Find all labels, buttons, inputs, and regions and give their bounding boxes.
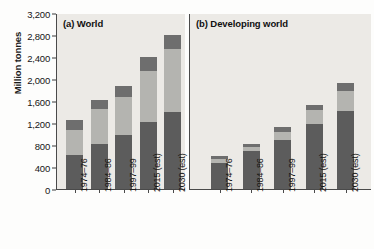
panel-developing-world-x-axis-line [189, 189, 371, 190]
bar-segment-animal-feed [337, 91, 354, 111]
bar-segment-animal-feed [306, 110, 323, 124]
bar-segment-other-uses [164, 35, 181, 49]
bar-segment-other-uses [337, 83, 354, 91]
bar-segment-animal-feed [115, 97, 132, 136]
panel-world-y-axis-line [56, 14, 57, 190]
x-tick-label: 1974–76 [224, 158, 234, 192]
x-tick-label: 1984–86 [255, 158, 265, 192]
bar-segment-animal-feed [66, 130, 83, 155]
x-tick-mark [75, 190, 76, 193]
x-tick-label: 2030 (est) [350, 153, 360, 192]
x-tick-mark [346, 190, 347, 193]
bar-segment-other-uses [140, 57, 157, 71]
x-tick-label: 1984–86 [103, 158, 113, 192]
bar-segment-animal-feed [164, 49, 181, 112]
x-tick-mark [314, 190, 315, 193]
y-tick-label: 2,800 [27, 31, 50, 42]
x-tick-mark [220, 190, 221, 193]
panel-world-title: (a) World [63, 18, 103, 29]
y-tick-label: 2,000 [27, 75, 50, 86]
y-tick-label: 0 [45, 185, 50, 196]
x-tick-mark [251, 190, 252, 193]
y-tick-label: 3,200 [27, 9, 50, 20]
x-tick-mark [99, 190, 100, 193]
bar-segment-animal-feed [274, 132, 291, 140]
x-tick-mark [148, 190, 149, 193]
x-tick-label: 2015 (est) [318, 153, 328, 192]
x-tick-mark [283, 190, 284, 193]
bar-segment-other-uses [115, 86, 132, 96]
y-tick-label: 800 [35, 141, 50, 152]
x-tick-label: 1997–99 [128, 158, 138, 192]
x-tick-label: 2015 (est) [152, 153, 162, 192]
chart-figure: Million tonnes 04008001,2001,6002,0002,4… [0, 0, 374, 249]
bar-segment-other-uses [66, 120, 83, 129]
y-tick-label: 1,600 [27, 97, 50, 108]
x-tick-mark [124, 190, 125, 193]
x-tick-label: 2030 (est) [177, 153, 187, 192]
bar-segment-animal-feed [91, 109, 108, 144]
x-tick-mark [173, 190, 174, 193]
x-tick-label: 1974–76 [79, 158, 89, 192]
y-tick-label: 400 [35, 163, 50, 174]
panel-developing-world: (b) Developing world Food Animal feed Ot… [189, 14, 371, 190]
panel-world: (a) World [56, 14, 185, 190]
y-tick-label: 1,200 [27, 119, 50, 130]
y-axis-tick-labels: 04008001,2001,6002,0002,4002,8003,200 [14, 0, 56, 249]
panel-developing-world-y-axis-line [189, 14, 190, 190]
bar-segment-animal-feed [140, 71, 157, 123]
bar-segment-other-uses [91, 100, 108, 109]
x-tick-label: 1997–99 [287, 158, 297, 192]
y-tick-label: 2,400 [27, 53, 50, 64]
panel-developing-world-title: (b) Developing world [196, 18, 288, 29]
